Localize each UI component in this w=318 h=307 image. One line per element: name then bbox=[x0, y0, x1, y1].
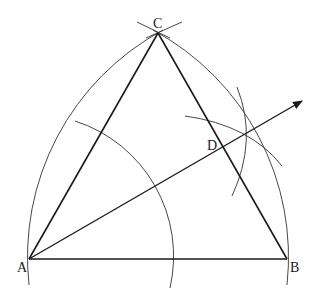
bisector-ray bbox=[29, 101, 302, 259]
side-ac bbox=[29, 33, 158, 259]
label-c: C bbox=[153, 16, 162, 31]
arc-mark-from-b bbox=[232, 87, 246, 196]
arc-centered-b bbox=[27, 30, 163, 285]
label-d: D bbox=[207, 138, 217, 153]
label-b: B bbox=[290, 260, 299, 275]
c-cross-mark-2 bbox=[146, 22, 182, 38]
side-bc bbox=[158, 33, 287, 259]
label-a: A bbox=[17, 260, 28, 275]
construction-diagram: A B C D bbox=[0, 0, 318, 307]
